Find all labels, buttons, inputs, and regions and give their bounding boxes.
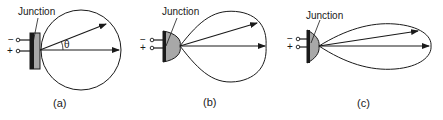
theta-arc bbox=[61, 42, 63, 50]
junction-label: Junction bbox=[306, 10, 343, 21]
panel-a: θ Junction − + (a) bbox=[7, 6, 121, 109]
radiation-pattern-diagram: θ Junction − + (a) Junction − + (b) bbox=[0, 0, 443, 120]
negative-terminal bbox=[16, 38, 20, 42]
negative-terminal bbox=[296, 37, 300, 41]
caption-b: (b) bbox=[203, 96, 216, 108]
positive-sign: + bbox=[287, 41, 293, 52]
positive-terminal bbox=[150, 46, 154, 50]
panel-c: Junction − + (c) bbox=[287, 10, 431, 109]
positive-sign: + bbox=[140, 42, 146, 53]
caption-a: (a) bbox=[53, 97, 66, 109]
angled-arrow bbox=[40, 24, 106, 50]
theta-label: θ bbox=[64, 39, 70, 50]
angled-arrow bbox=[180, 23, 257, 46]
negative-sign: − bbox=[8, 34, 14, 45]
caption-c: (c) bbox=[357, 97, 370, 109]
panel-b: Junction − + (b) bbox=[140, 6, 266, 108]
chip-die bbox=[30, 33, 34, 69]
negative-terminal bbox=[150, 38, 154, 42]
radiation-pattern-lobe bbox=[180, 11, 266, 82]
junction-label: Junction bbox=[162, 6, 199, 17]
positive-terminal bbox=[296, 45, 300, 49]
chip-die bbox=[307, 30, 310, 63]
positive-terminal bbox=[16, 49, 20, 53]
angled-arrow bbox=[319, 31, 418, 46]
junction-label: Junction bbox=[18, 6, 55, 17]
chip-die bbox=[163, 31, 166, 62]
positive-sign: + bbox=[7, 45, 13, 56]
